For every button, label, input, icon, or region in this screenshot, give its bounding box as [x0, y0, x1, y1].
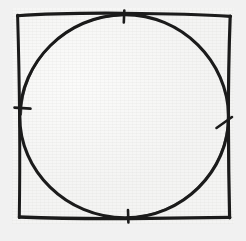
- circle-arc-retrace-upper-left: [21, 15, 121, 115]
- circle-arc-retrace-lower-right: [127, 121, 228, 218]
- tick-top: [124, 11, 125, 23]
- ink-drawing-layer: [0, 0, 246, 241]
- sketch-figure: Circle inscribed in a square square outl…: [0, 0, 246, 241]
- tangent-tick-marks: [15, 11, 233, 223]
- inscribed-circle: [20, 15, 229, 218]
- tick-left: [15, 108, 31, 109]
